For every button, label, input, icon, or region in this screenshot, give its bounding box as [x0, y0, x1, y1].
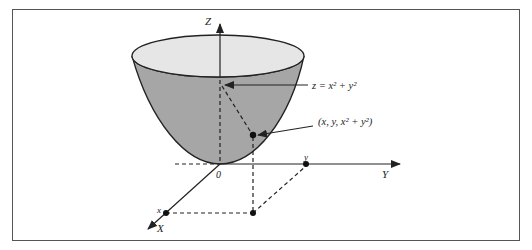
paraboloid-rim	[132, 35, 304, 77]
paraboloid-diagram: Z Y X 0 z = x² + y² (x, y, x² + y²) x y	[0, 0, 532, 250]
x-point	[163, 210, 169, 216]
equation-label: z = x² + y²	[311, 80, 357, 91]
y-axis-label: Y	[382, 168, 390, 180]
origin-label: 0	[216, 169, 221, 180]
z-axis-label: Z	[205, 15, 212, 27]
y-tick-label: y	[303, 152, 308, 162]
point-label: (x, y, x² + y²)	[318, 116, 373, 128]
base-point	[250, 210, 256, 216]
surface-point	[250, 132, 256, 138]
x-tick-label: x	[156, 205, 161, 215]
x-axis-label: X	[156, 222, 165, 234]
